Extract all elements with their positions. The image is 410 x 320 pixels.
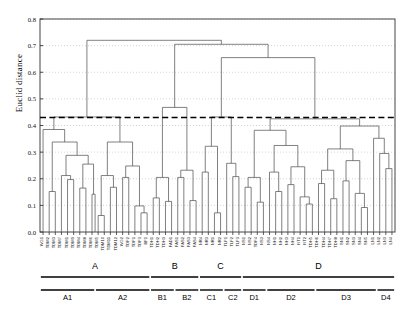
dendrogram-link [254,130,286,177]
leaf-label: LN1 [370,236,375,244]
group-label-B: B [161,261,189,271]
leaf-label: TDF3 [137,236,142,247]
leaf-label: TDH7 [327,236,332,247]
leaf-label: TLF2 [229,236,234,246]
dendrogram-link [346,161,360,194]
dendrogram-link [98,215,104,232]
dendrogram-link [181,170,193,200]
dendrogram-link [361,208,367,233]
dendrogram-link [141,213,147,232]
leaf-label: NH4 [290,236,295,245]
dendrogram-link [49,192,55,232]
leaf-label: TDF1 [131,236,136,247]
leaf-label: TDH2 [155,236,160,247]
dendrogram-link [355,193,364,232]
dendrogram-plot: 0.00.10.20.30.40.50.60.70.8WG1TDM2TDM3TD… [0,0,410,320]
leaf-label: NR1 [210,236,215,245]
leaf-label: NH1 [272,236,277,245]
dendrogram-link [227,163,236,232]
leaf-label: FAD1 [168,236,173,247]
dendrogram-link [68,180,74,232]
dendrogram-link [211,117,231,163]
subgroup-label-D3: D3 [332,293,360,302]
dendrogram-link [233,177,239,232]
leaf-label: SN3 [351,236,356,245]
dendrogram-link [318,184,324,232]
dendrogram-link [221,58,315,119]
y-axis-tick-label: 0.2 [28,175,36,182]
group-label-A: A [81,261,109,271]
subgroup-label-D1: D1 [240,293,268,302]
leaf-label: SN4 [357,236,362,245]
subgroup-label-A1: A1 [54,293,82,302]
leaf-label: NH2 [278,236,283,245]
dendrogram-link [61,176,70,232]
dendrogram-link [126,166,140,206]
leaf-label: TDM3 [51,236,56,248]
dendrogram-link [66,155,88,175]
dendrogram-figure: Euclid distance 0.00.10.20.30.40.50.60.7… [0,0,410,320]
dendrogram-link [205,146,217,213]
dendrogram-link [322,170,334,198]
dendrogram-link [343,181,349,232]
dendrogram-link [274,145,298,172]
subgroup-label-D2: D2 [277,293,305,302]
leaf-label: NS1 [241,236,246,245]
dendrogram-link [214,213,220,232]
dendrogram-link [248,177,260,202]
dendrogram-link [101,176,113,216]
leaf-label: TDF4 [253,236,258,247]
leaf-label: SN5 [363,236,368,245]
dendrogram-link [386,169,392,232]
dendrogram-link [165,201,171,232]
dendrogram-link [92,194,95,232]
leaf-label: TDM2 [45,236,50,248]
leaf-label: TDM8 [82,236,87,248]
y-axis-tick-label: 0.4 [28,122,37,129]
dendrogram-link [107,142,132,176]
y-axis-tick-label: 0.0 [28,229,37,236]
y-axis-tick-label: 0.7 [28,42,37,49]
dendrogram-link [245,187,251,232]
dendrogram-link [80,188,86,232]
group-label-C: C [207,261,235,271]
leaf-label: TDM9 [70,236,75,248]
leaf-label: NS4 [266,236,271,245]
leaf-label: TDM4 [76,236,81,248]
leaf-label: SN1 [339,236,344,245]
leaf-label: FAS3 [186,236,191,247]
leaf-label: TDM1 [64,236,69,248]
dendrogram-link [288,185,294,232]
leaf-label: TDM6 [88,236,93,248]
leaf-label: TDM7 [57,236,62,248]
dendrogram-link [123,177,129,232]
leaf-label: TDH1 [149,236,154,247]
leaf-label: TDM11 [106,236,111,250]
leaf-label: NS2 [247,236,252,245]
y-axis-tick-label: 0.5 [28,95,37,102]
leaf-label: NT2 [302,236,307,244]
dendrogram-link [87,40,221,117]
dendrogram-link [202,172,208,232]
leaf-label: NS3 [259,236,264,245]
dendrogram-link [306,204,312,232]
leaf-label: TDF2 [125,236,130,247]
y-axis-tick-label: 0.8 [28,16,37,23]
leaf-label: NH3 [284,236,289,245]
dendrogram-link [178,177,184,232]
leaf-label: NR2 [217,236,222,245]
dendrogram-link [257,202,263,232]
leaf-label: NR4 [198,236,203,245]
leaf-label: TDH8 [333,236,338,247]
dendrogram-link [135,206,144,232]
leaf-label: TDH5 [308,236,313,247]
y-axis-label: Euclid distance [14,38,24,128]
leaf-label: TLF1 [223,236,228,246]
dendrogram-link [110,187,116,232]
leaf-label: LN3 [382,236,387,244]
y-axis-tick-label: 0.1 [28,202,36,209]
y-axis-tick-label: 0.3 [28,149,37,156]
leaf-label: TDH3 [161,236,166,247]
y-axis-tick-label: 0.6 [28,69,37,76]
leaf-label: WG1 [39,236,44,246]
